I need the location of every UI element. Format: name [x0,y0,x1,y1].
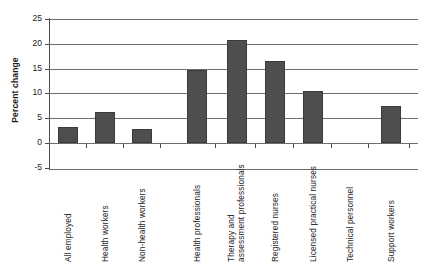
y-tick-label: -5 [16,163,42,172]
x-tick-mark [215,144,216,148]
bar [187,70,207,143]
y-tick-mark [45,143,49,144]
x-tick-mark [368,144,369,148]
y-tick-label: 5 [16,113,42,122]
category-label: Registered nurses [271,193,281,262]
category-label: Health professionals [193,185,203,262]
y-tick-mark [45,44,49,45]
category-label: Technical personnel [346,187,356,262]
category-label: Health workers [101,205,111,262]
x-tick-mark [255,144,256,148]
y-tick-label: 25 [16,14,42,23]
bar [381,106,401,143]
x-tick-mark [160,144,161,148]
x-tick-mark [331,144,332,148]
bar [227,40,247,143]
bar [95,112,115,143]
bar [303,91,323,143]
category-label: Non-health workers [138,188,148,262]
y-tick-mark [45,168,49,169]
y-tick-mark [45,19,49,20]
y-tick-label: 0 [16,138,42,147]
x-tick-mark [293,144,294,148]
y-tick-label: 20 [16,39,42,48]
x-tick-mark [409,144,410,148]
y-tick-mark [45,118,49,119]
bar [58,127,78,143]
y-tick-label: 15 [16,64,42,73]
y-tick-mark [45,93,49,94]
category-label: Therapy andassessment professionals [227,154,246,262]
category-label: All employed [64,213,74,262]
gridline-0 [49,143,418,144]
y-tick-mark [45,69,49,70]
x-tick-mark [123,144,124,148]
category-label: Support workers [387,200,397,262]
category-label: Licensed practical nurses [309,166,319,262]
gridline-25 [49,19,418,20]
y-tick-label: 10 [16,88,42,97]
bar [132,129,152,143]
bar [265,61,285,143]
x-tick-mark [86,144,87,148]
bar-chart: Percent change -50510152025 All employed… [0,0,436,269]
